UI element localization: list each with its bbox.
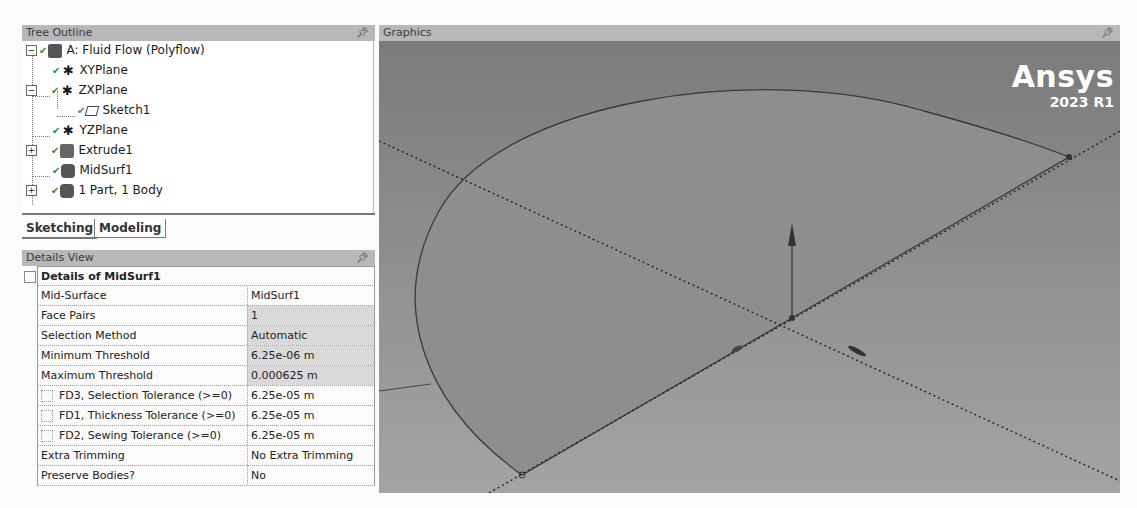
tree-outline: −✔A: Fluid Flow (Polyflow) ✔✱XYPlane −✔✱…: [22, 41, 374, 213]
tree-item-label: Extrude1: [78, 143, 133, 157]
part-body-icon: [60, 184, 74, 198]
details-row-label: FD3, Selection Tolerance (>=0): [59, 389, 232, 402]
tree-item-parts[interactable]: +✔1 Part, 1 Body: [26, 181, 163, 199]
tree-item-extrude1[interactable]: +✔Extrude1: [26, 141, 133, 159]
geometry-root-icon: [48, 44, 62, 58]
details-row[interactable]: FD1, Thickness Tolerance (>=0) 6.25e-05 …: [37, 406, 375, 426]
origin-point: [789, 315, 795, 321]
details-row[interactable]: Face Pairs 1: [37, 306, 375, 326]
details-row-value[interactable]: Automatic: [247, 326, 374, 345]
graphics-title: Graphics: [383, 26, 432, 39]
details-row[interactable]: FD3, Selection Tolerance (>=0) 6.25e-05 …: [37, 386, 375, 406]
collapse-icon[interactable]: −: [26, 45, 37, 56]
graphics-header: Graphics 📌︎: [379, 25, 1120, 41]
check-icon: ✔: [51, 145, 59, 156]
details-row-label: Preserve Bodies?: [41, 466, 135, 485]
pin-icon[interactable]: 📌︎: [356, 250, 369, 266]
tree-item-label: 1 Part, 1 Body: [78, 183, 163, 197]
details-view-header: Details View 📌︎: [22, 250, 375, 266]
parameter-checkbox[interactable]: [41, 410, 53, 422]
details-row-value: 1: [247, 306, 374, 325]
tree-item-label: Sketch1: [102, 103, 150, 117]
plane-icon: ✱: [61, 64, 75, 78]
details-row-label: Extra Trimming: [41, 446, 125, 465]
plane-icon: ✱: [61, 124, 75, 138]
tree-item-label: ZXPlane: [78, 83, 127, 97]
ansys-logo: Ansys 2023 R1: [1012, 61, 1114, 111]
details-row[interactable]: Minimum Threshold 6.25e-06 m: [37, 346, 375, 366]
details-row[interactable]: Maximum Threshold 0.000625 m: [37, 366, 375, 386]
collapse-icon[interactable]: −: [26, 85, 37, 96]
check-icon: ✔: [52, 165, 60, 176]
details-row-label: Face Pairs: [41, 306, 96, 325]
mode-tabs: Sketching Modeling: [22, 213, 375, 241]
details-row-label: Maximum Threshold: [41, 366, 153, 385]
plane-icon: ✱: [60, 84, 74, 98]
details-group-header: Details of MidSurf1: [37, 266, 375, 286]
expand-icon[interactable]: +: [26, 185, 37, 196]
details-row-value[interactable]: 6.25e-06 m: [247, 346, 374, 365]
tree-item-midsurf1[interactable]: ✔MidSurf1: [52, 161, 133, 179]
tree-item-xyplane[interactable]: ✔✱XYPlane: [52, 61, 128, 79]
parameter-checkbox[interactable]: [41, 430, 53, 442]
details-row-value[interactable]: No: [247, 466, 374, 485]
details-row[interactable]: Mid-Surface MidSurf1: [37, 286, 375, 306]
details-row-value[interactable]: 6.25e-05 m: [247, 426, 374, 445]
tree-item-label: MidSurf1: [79, 163, 132, 177]
check-icon: ✔: [52, 65, 60, 76]
tree-outline-title: Tree Outline: [26, 26, 92, 39]
check-icon: ✔: [52, 125, 60, 136]
details-row-label: Mid-Surface: [41, 286, 106, 305]
tree-item-root[interactable]: −✔A: Fluid Flow (Polyflow): [26, 41, 205, 59]
tree-item-label: A: Fluid Flow (Polyflow): [66, 43, 204, 57]
tree-item-label: YZPlane: [79, 123, 127, 137]
check-icon: ✔: [51, 185, 59, 196]
logo-brand: Ansys: [1012, 61, 1114, 93]
details-row-value[interactable]: No Extra Trimming: [247, 446, 374, 465]
tree-item-label: XYPlane: [79, 63, 127, 77]
details-row-label: Selection Method: [41, 326, 136, 345]
details-row-value[interactable]: 6.25e-05 m: [247, 386, 374, 405]
tree-outline-header: Tree Outline 📌︎: [22, 25, 375, 41]
parameter-checkbox[interactable]: [41, 390, 53, 402]
tab-sketching[interactable]: Sketching: [22, 219, 97, 239]
pin-icon[interactable]: 📌︎: [1101, 25, 1114, 41]
details-row[interactable]: Preserve Bodies? No: [37, 466, 375, 486]
model-view[interactable]: [379, 41, 1120, 493]
pin-icon[interactable]: 📌︎: [356, 25, 369, 41]
details-row[interactable]: Extra Trimming No Extra Trimming: [37, 446, 375, 466]
tree-connector: [57, 116, 75, 117]
check-icon: ✔: [51, 85, 59, 96]
details-view-title: Details View: [26, 251, 94, 264]
tree-item-sketch1[interactable]: ✔Sketch1: [77, 101, 150, 119]
tree-item-zxplane[interactable]: −✔✱ZXPlane: [26, 81, 128, 99]
details-row-value[interactable]: 6.25e-05 m: [247, 406, 374, 425]
group-collapse-toggle[interactable]: [24, 271, 36, 283]
details-row-label: FD2, Sewing Tolerance (>=0): [59, 429, 221, 442]
details-row[interactable]: Selection Method Automatic: [37, 326, 375, 346]
details-row-value[interactable]: 0.000625 m: [247, 366, 374, 385]
sketch-icon: [85, 106, 100, 116]
expand-icon[interactable]: +: [26, 145, 37, 156]
tree-connector: [32, 136, 50, 137]
details-row-label: Minimum Threshold: [41, 346, 150, 365]
graphics-viewport[interactable]: Ansys 2023 R1: [379, 41, 1120, 493]
vertex-point: [1066, 154, 1072, 160]
extrude-icon: [60, 144, 74, 158]
check-icon: ✔: [39, 45, 47, 56]
tree-connector: [32, 176, 50, 177]
midsurface-icon: [61, 164, 75, 178]
tab-modeling[interactable]: Modeling: [94, 219, 166, 238]
details-row-value[interactable]: MidSurf1: [247, 286, 374, 305]
tree-item-yzplane[interactable]: ✔✱YZPlane: [52, 121, 128, 139]
logo-version: 2023 R1: [1012, 93, 1114, 111]
details-row[interactable]: FD2, Sewing Tolerance (>=0) 6.25e-05 m: [37, 426, 375, 446]
details-row-label: FD1, Thickness Tolerance (>=0): [59, 409, 236, 422]
details-group-title: Details of MidSurf1: [41, 267, 161, 286]
